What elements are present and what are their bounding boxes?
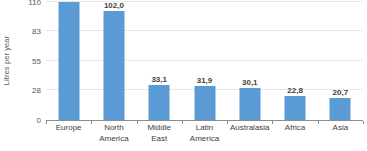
bar[interactable] [58, 2, 79, 120]
bar-value-label: 22,8 [287, 86, 303, 95]
bar[interactable] [103, 11, 124, 120]
plot-area: 109,9102,033,131,930,122,820,7 [46, 2, 363, 121]
category-label-line1: Middle [147, 123, 171, 132]
category-label-line1: Europe [56, 123, 82, 132]
y-tick-label: 83 [32, 26, 41, 35]
bar-value-label: 102,0 [104, 1, 124, 10]
bar[interactable] [194, 86, 215, 120]
gridline [46, 1, 363, 2]
category-label: Asia [333, 123, 349, 134]
category-label: LatinAmerica [190, 123, 219, 144]
y-tick-label: 0 [37, 116, 41, 125]
bar[interactable] [149, 85, 170, 121]
category-label-line2: East [147, 134, 171, 145]
category-label-line1: Australasia [230, 123, 270, 132]
category-label-line1: Latin [196, 123, 213, 132]
y-tick-label: 110 [28, 0, 41, 7]
x-axis-tick [363, 121, 364, 124]
category-label: MiddleEast [147, 123, 171, 144]
category-label-line2: America [190, 134, 219, 145]
y-tick-label: 28 [32, 85, 41, 94]
gridline [46, 60, 363, 61]
gridline [46, 30, 363, 31]
y-axis-title: Litres per year [0, 0, 14, 121]
bar-value-label: 31,9 [197, 76, 213, 85]
y-axis-title-text: Litres per year [3, 36, 12, 85]
y-axis-tick-labels: 0285583110 [14, 0, 44, 121]
bar-value-label: 20,7 [333, 88, 349, 97]
bar[interactable] [285, 96, 306, 120]
x-axis-line [46, 120, 363, 121]
category-label-line1: Asia [333, 123, 349, 132]
category-label: Europe [56, 123, 82, 134]
category-label: Australasia [230, 123, 270, 134]
category-label-line1: Africa [285, 123, 305, 132]
bar[interactable] [239, 88, 260, 120]
category-label: NorthAmerica [99, 123, 128, 144]
bar-value-label: 30,1 [242, 78, 258, 87]
bar-value-label: 109,9 [59, 0, 79, 1]
x-axis-category-labels: EuropeNorthAmericaMiddleEastLatinAmerica… [46, 123, 363, 151]
category-label: Africa [285, 123, 305, 134]
category-label-line1: North [104, 123, 124, 132]
category-label-line2: America [99, 134, 128, 145]
bar-chart: Litres per year 0285583110 109,9102,033,… [0, 0, 367, 151]
bar[interactable] [330, 98, 351, 120]
y-tick-label: 55 [32, 57, 41, 66]
bar-value-label: 33,1 [151, 75, 167, 84]
